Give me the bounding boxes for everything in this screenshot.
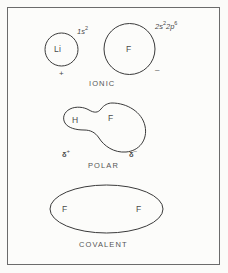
li-config-exponent: 2: [85, 25, 88, 31]
delta-positive-label: δ+: [62, 148, 70, 158]
polar-caption: POLAR: [88, 162, 119, 170]
lithium-electron-configuration: 1s2: [77, 26, 88, 35]
polar-hydrogen-symbol: H: [72, 116, 78, 125]
f-config-exponent-2: 6: [174, 20, 177, 26]
fluoride-electron-configuration: 2s22p6: [155, 21, 177, 30]
diagram-shapes: [0, 0, 228, 273]
covalent-fluorine-right: F: [136, 205, 141, 214]
ionic-caption: IONIC: [89, 80, 115, 88]
delta-sign-right: –: [134, 148, 137, 154]
delta-sign-left: +: [67, 148, 71, 154]
covalent-caption: COVALENT: [79, 241, 128, 249]
delta-negative-label: δ–: [129, 148, 137, 158]
polar-fluorine-symbol: F: [108, 114, 113, 123]
lithium-positive-charge: +: [59, 70, 64, 78]
fluoride-negative-charge: –: [155, 66, 159, 74]
covalent-fluorine-left: F: [62, 205, 67, 214]
polar-molecule-outline: [64, 103, 146, 152]
lithium-symbol: Li: [54, 45, 61, 54]
lithium-ion-circle: [45, 33, 78, 66]
fluoride-symbol: F: [126, 45, 131, 54]
chemical-bonding-diagram: Li 1s2 + F 2s22p6 – IONIC H F δ+ δ– POLA…: [0, 0, 228, 273]
